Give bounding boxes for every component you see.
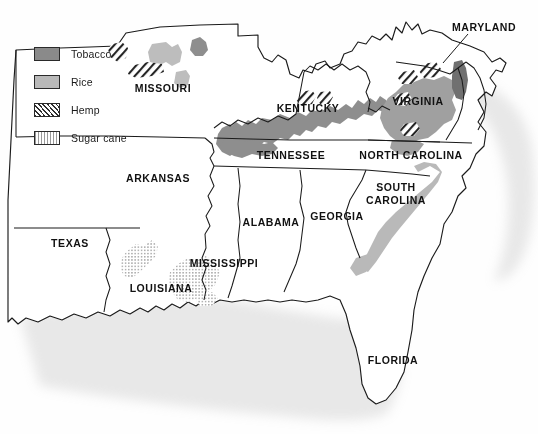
legend-item-tobacco: Tobacco — [34, 40, 164, 68]
tobacco-swatch-icon — [34, 47, 60, 61]
rice-swatch-icon — [34, 75, 60, 89]
legend-label-hemp: Hemp — [71, 104, 100, 116]
legend-item-hemp: Hemp — [34, 96, 164, 124]
crop-legend: Tobacco Rice Hemp Sugar cane — [34, 40, 164, 152]
legend-label-rice: Rice — [71, 76, 93, 88]
legend-label-tobacco: Tobacco — [71, 48, 112, 60]
legend-item-sugar-cane: Sugar cane — [34, 124, 164, 152]
sugar-cane-swatch-icon — [34, 131, 60, 145]
legend-label-sugar-cane: Sugar cane — [71, 132, 127, 144]
crop-map: Tobacco Rice Hemp Sugar cane MISSOURIARK… — [0, 0, 538, 434]
legend-item-rice: Rice — [34, 68, 164, 96]
hemp-swatch-icon — [34, 103, 60, 117]
